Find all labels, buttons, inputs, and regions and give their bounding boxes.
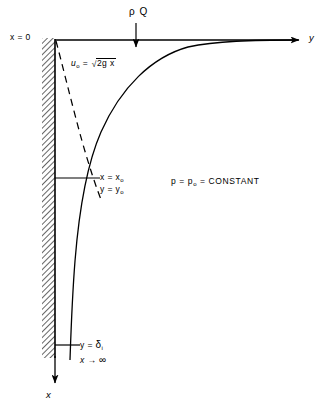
hatched-wall — [42, 38, 55, 358]
right-arrow-icon: → — [87, 355, 96, 365]
velocity-profile-label: uo = √2g x — [71, 58, 116, 69]
pressure-label: p = po = CONSTANT — [171, 177, 260, 187]
inflow-label: ρ Q — [129, 6, 148, 18]
y-reference-line: y = yo — [100, 183, 124, 195]
film-surface-curve — [70, 40, 298, 360]
delta-subscript: i — [102, 345, 104, 351]
velocity-subscript: o — [76, 63, 80, 69]
y-axis-label: y — [309, 33, 314, 44]
pressure-tail: = CONSTANT — [200, 176, 259, 186]
radicand: 2g x — [96, 58, 116, 69]
delta-symbol: δ — [96, 339, 102, 350]
diagram-canvas — [0, 0, 336, 411]
asymptote-label: y = δi x → ∞ — [80, 338, 107, 367]
origin-label: x = 0 — [10, 33, 31, 43]
reference-point-label: x = xo y = yo — [100, 171, 124, 196]
x-axis-label: x — [46, 390, 51, 401]
pressure-subscript: o — [193, 181, 197, 187]
pressure-head: p = p — [171, 176, 193, 186]
x-infinity-line: x → ∞ — [80, 353, 107, 368]
x-reference-line: x = xo — [100, 171, 124, 183]
infinity-symbol: ∞ — [99, 354, 107, 365]
delta-line: y = δi — [80, 338, 107, 353]
boundary-layer-diagram: x = 0 ρ Q y x uo = √2g x x = xo y = yo p… — [0, 0, 336, 411]
sqrt-expression: √2g x — [91, 58, 116, 69]
equals-sign: = — [83, 58, 88, 68]
